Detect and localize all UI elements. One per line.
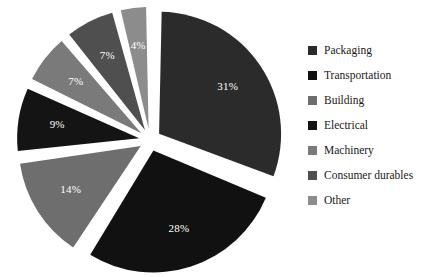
- legend-swatch-icon: [308, 46, 317, 55]
- pie-slice-label: 4%: [131, 39, 146, 51]
- legend-item-label: Consumer durables: [324, 163, 413, 188]
- pie-slice[interactable]: [159, 12, 281, 176]
- legend-item[interactable]: Consumer durables: [308, 163, 447, 188]
- legend-item-label: Packaging: [324, 38, 372, 63]
- legend-swatch-icon: [308, 71, 317, 80]
- pie-plot-area: 31%28%14%9%7%7%4%: [0, 0, 300, 277]
- legend-swatch-icon: [308, 196, 317, 205]
- pie-slices-group: [17, 7, 281, 272]
- legend-item-label: Building: [324, 88, 364, 113]
- pie-slice-label: 31%: [217, 80, 238, 92]
- pie-slice-label: 7%: [100, 49, 115, 61]
- pie-slice-label: 7%: [68, 75, 83, 87]
- pie-slice-label: 28%: [169, 222, 190, 234]
- pie-slice-label: 9%: [50, 118, 65, 130]
- legend-item[interactable]: Machinery: [308, 138, 447, 163]
- legend-item-label: Transportation: [324, 63, 391, 88]
- legend-swatch-icon: [308, 121, 317, 130]
- legend-item[interactable]: Other: [308, 188, 447, 213]
- legend-swatch-icon: [308, 96, 317, 105]
- legend-item[interactable]: Building: [308, 88, 447, 113]
- legend-item-label: Other: [324, 188, 350, 213]
- pie-svg: 31%28%14%9%7%7%4%: [0, 0, 300, 277]
- legend-item[interactable]: Transportation: [308, 63, 447, 88]
- legend-item[interactable]: Packaging: [308, 38, 447, 63]
- legend: PackagingTransportationBuildingElectrica…: [308, 38, 447, 213]
- pie-slice-label: 14%: [60, 183, 81, 195]
- pie-chart-figure: 31%28%14%9%7%7%4% PackagingTransportatio…: [0, 0, 447, 277]
- legend-item[interactable]: Electrical: [308, 113, 447, 138]
- legend-swatch-icon: [308, 146, 317, 155]
- legend-item-label: Electrical: [324, 113, 368, 138]
- legend-item-label: Machinery: [324, 138, 374, 163]
- legend-swatch-icon: [308, 171, 317, 180]
